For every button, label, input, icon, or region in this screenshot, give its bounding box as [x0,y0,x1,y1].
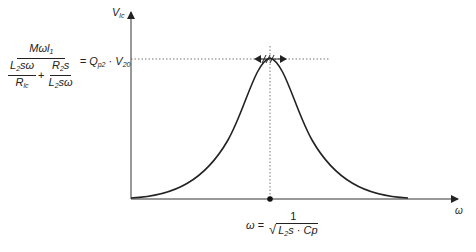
resonance-point [267,196,273,202]
peak-tuning-arrow [254,55,287,63]
y-axis-label: Vlc [112,6,124,19]
peak-value-formula: Mωl1 L2sω Rlc + R2s L2sω = Qp2 · V20 [6,42,130,92]
resonance-curve [131,58,408,198]
resonance-frequency-formula: ω = 1 √ L2s · Cp [246,210,320,240]
resonance-diagram [0,0,476,252]
x-axis-label: ω [455,205,463,216]
